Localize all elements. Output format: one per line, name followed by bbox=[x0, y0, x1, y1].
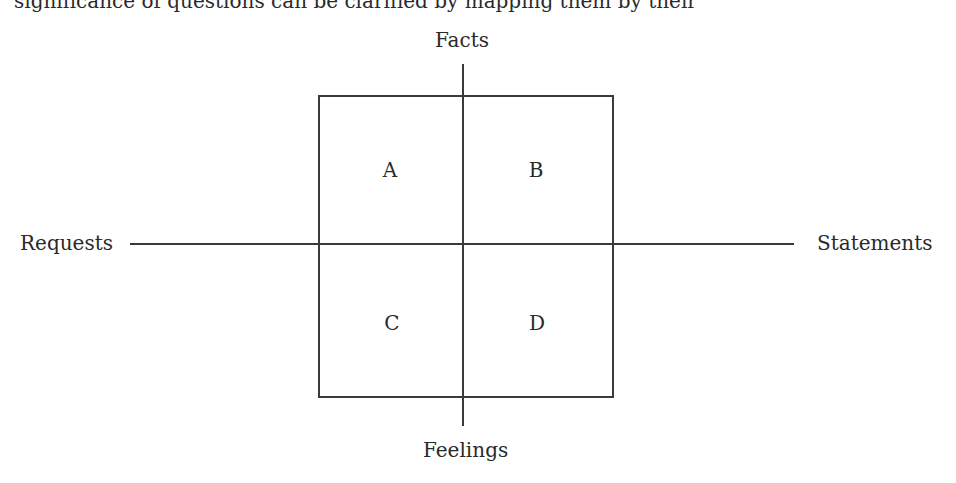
quadrant-label-a: A bbox=[375, 158, 405, 182]
quadrant-label-c: C bbox=[377, 311, 407, 335]
quadrant-box bbox=[318, 95, 614, 398]
quadrant-label-b: B bbox=[521, 158, 551, 182]
clipped-caption-text: significance of questions can be clarifi… bbox=[14, 0, 697, 13]
axis-label-facts: Facts bbox=[435, 28, 489, 52]
axis-label-statements: Statements bbox=[817, 231, 933, 255]
axis-label-requests: Requests bbox=[20, 231, 113, 255]
horizontal-axis-line bbox=[130, 243, 794, 245]
quadrant-label-d: D bbox=[522, 311, 552, 335]
axis-label-feelings: Feelings bbox=[423, 438, 508, 462]
vertical-axis-line bbox=[462, 64, 464, 426]
